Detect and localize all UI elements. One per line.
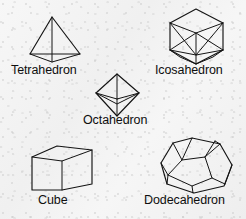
dodecahedron-inner-edge <box>182 141 215 160</box>
solids-linework <box>0 0 246 219</box>
octahedron-drawing <box>96 74 139 116</box>
icosahedron-drawing <box>170 9 223 64</box>
cube-inner-edge <box>32 150 92 161</box>
tetrahedron-inner-edge <box>30 54 80 62</box>
dodecahedron-inner-edge <box>182 138 192 160</box>
dodecahedron-drawing <box>161 138 232 193</box>
dodecahedron-inner-edge <box>225 165 232 184</box>
tetrahedron-drawing <box>30 17 80 62</box>
label-cube: Cube <box>38 194 67 207</box>
label-tetrahedron: Tetrahedron <box>11 64 77 77</box>
label-octahedron: Octahedron <box>83 114 147 127</box>
platonic-solids-figure: Tetrahedron Icosahedron Octahedron Cube … <box>0 0 246 219</box>
cube-drawing <box>32 146 92 190</box>
label-dodecahedron: Dodecahedron <box>144 194 225 207</box>
tetrahedron-outline <box>30 17 80 54</box>
label-icosahedron: Icosahedron <box>155 64 223 77</box>
dodecahedron-inner-edge <box>167 175 192 186</box>
dodecahedron-outline <box>161 138 232 193</box>
dodecahedron-inner-edge <box>205 144 220 157</box>
icosahedron-inner-edge <box>170 23 223 33</box>
